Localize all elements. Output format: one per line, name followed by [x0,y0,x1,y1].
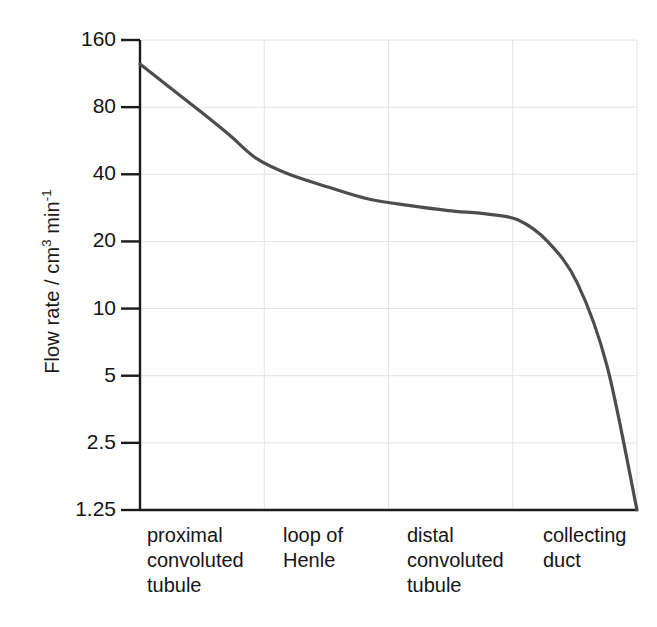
y-tick-label-1.25: 1.25 [75,497,116,521]
y-tick-label-2.5: 2.5 [87,430,116,454]
x-category-label-2: distal convoluted tubule [407,523,504,598]
y-axis-ticks [121,40,140,510]
y-tick-label-160: 160 [81,27,116,51]
y-axis-label-prefix: Flow rate / cm [41,247,63,374]
y-tick-label-10: 10 [93,296,116,320]
chart-container: Flow rate / cm3 min-1 1608040201052.51.2… [0,0,657,627]
y-tick-label-40: 40 [93,161,116,185]
y-tick-label-80: 80 [93,94,116,118]
y-axis-label-wrap: Flow rate / cm3 min-1 [12,140,52,440]
y-tick-label-20: 20 [93,228,116,252]
y-axis-label-superscript-3: 3 [39,239,54,246]
y-axis-label-mid: min [41,201,63,239]
gridlines [140,40,637,510]
x-category-label-0: proximal convoluted tubule [147,523,244,598]
y-tick-label-5: 5 [104,363,116,387]
x-category-label-3: collecting duct [543,523,626,573]
y-axis-label-superscript-minus1: -1 [39,189,54,201]
y-axis-label: Flow rate / cm3 min-1 [41,132,64,432]
x-category-label-1: loop of Henle [283,523,343,573]
